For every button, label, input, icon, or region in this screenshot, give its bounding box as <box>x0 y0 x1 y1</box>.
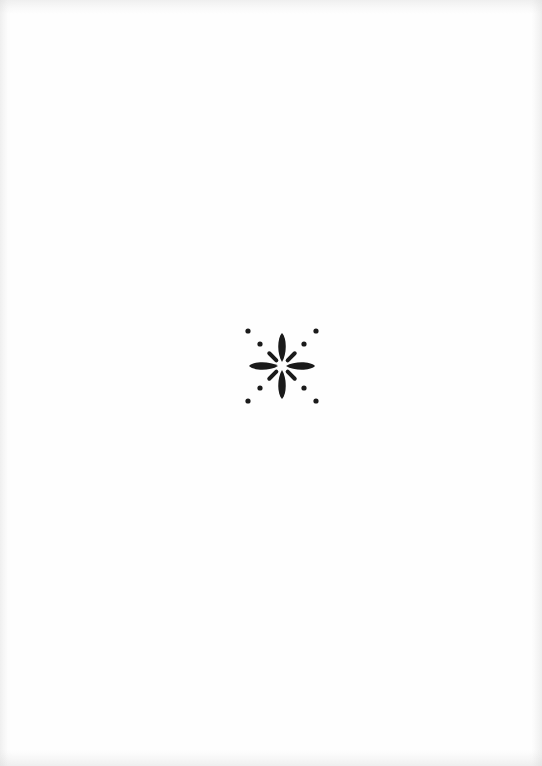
scan-edge-left <box>0 0 8 766</box>
scan-edge-right <box>532 0 542 766</box>
page <box>0 0 542 766</box>
scan-edge-bottom <box>0 750 542 766</box>
fleuron-flower-icon <box>240 324 324 408</box>
scan-edge-top <box>0 0 542 14</box>
